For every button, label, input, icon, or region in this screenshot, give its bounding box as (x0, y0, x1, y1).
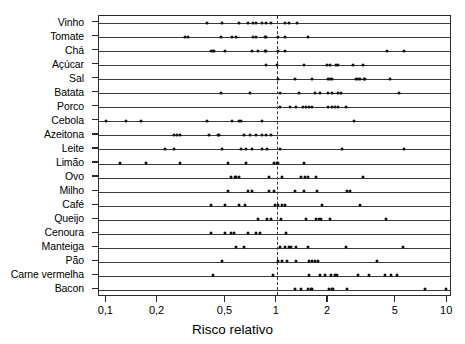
data-point (261, 21, 264, 24)
relative-risk-dot-plot: VinhoTomateCháAçúcarSalBatataPorcoCebola… (0, 0, 465, 344)
data-point (361, 63, 364, 66)
row-guide-line (99, 290, 450, 291)
data-point (328, 218, 331, 221)
y-tick-mark (92, 246, 98, 247)
data-point (289, 105, 292, 108)
y-axis-label-5: Sal (69, 72, 84, 83)
y-axis-label-13: Milho (59, 185, 84, 196)
y-tick-mark (92, 35, 98, 36)
data-point (235, 246, 238, 249)
data-point (359, 204, 362, 207)
data-point (286, 260, 289, 263)
data-point (261, 119, 264, 122)
data-point (330, 77, 333, 80)
data-point (231, 119, 234, 122)
data-point (319, 91, 322, 94)
data-point (306, 246, 309, 249)
x-axis-title: Risco relativo (0, 323, 465, 337)
data-point (403, 147, 406, 150)
data-point (265, 49, 268, 52)
data-point (209, 232, 212, 235)
data-point (284, 246, 287, 249)
y-axis-label-9: Azeitona (44, 129, 84, 140)
y-axis-label-16: Cenoura (44, 227, 84, 238)
data-point (271, 274, 274, 277)
data-point (255, 35, 258, 38)
data-point (227, 162, 230, 165)
y-axis-label-10: Leite (62, 143, 84, 154)
data-point (247, 21, 250, 24)
data-point (257, 218, 260, 221)
x-tick-mark (105, 296, 106, 302)
data-point (235, 35, 238, 38)
data-point (445, 288, 448, 291)
data-point (388, 77, 391, 80)
row-guide-line (99, 107, 450, 108)
data-point (314, 91, 317, 94)
data-point (294, 288, 297, 291)
data-point (306, 176, 309, 179)
row-guide-line (99, 149, 450, 150)
data-point (227, 190, 230, 193)
y-tick-mark (92, 105, 98, 106)
y-axis-label-11: Limão (56, 157, 84, 168)
y-axis-label-20: Bacon (55, 283, 84, 294)
data-point (211, 274, 214, 277)
data-point (244, 162, 247, 165)
data-point (219, 91, 222, 94)
row-guide-line (99, 121, 450, 122)
data-point (281, 260, 284, 263)
data-point (251, 147, 254, 150)
row-guide-line (99, 51, 450, 52)
data-point (297, 91, 300, 94)
data-point (186, 35, 189, 38)
data-point (385, 218, 388, 221)
data-point (251, 190, 254, 193)
data-point (302, 63, 305, 66)
data-point (336, 105, 339, 108)
row-guide-line (99, 262, 450, 263)
data-point (206, 21, 209, 24)
data-point (287, 21, 290, 24)
data-point (232, 232, 235, 235)
data-point (118, 162, 121, 165)
data-point (265, 35, 268, 38)
data-point (230, 176, 233, 179)
data-point (332, 288, 335, 291)
data-point (266, 147, 269, 150)
data-point (294, 190, 297, 193)
row-guide-line (99, 23, 450, 24)
data-point (243, 204, 246, 207)
data-point (224, 204, 227, 207)
data-point (328, 63, 331, 66)
data-point (277, 204, 280, 207)
x-tick-label-2: 0,2 (149, 305, 164, 316)
y-tick-mark (92, 91, 98, 92)
data-point (295, 246, 298, 249)
y-tick-mark (92, 63, 98, 64)
row-guide-line (99, 234, 450, 235)
data-point (261, 147, 264, 150)
data-point (306, 35, 309, 38)
data-point (277, 260, 280, 263)
data-point (281, 176, 284, 179)
data-point (280, 218, 283, 221)
row-guide-line (99, 220, 450, 221)
data-point (320, 218, 323, 221)
data-point (255, 133, 258, 136)
data-point (302, 162, 305, 165)
data-point (397, 91, 400, 94)
data-point (144, 162, 147, 165)
data-point (339, 91, 342, 94)
data-point (315, 190, 318, 193)
data-point (290, 246, 293, 249)
data-point (244, 147, 247, 150)
data-point (240, 119, 243, 122)
data-point (221, 260, 224, 263)
y-tick-mark (92, 260, 98, 261)
data-point (275, 63, 278, 66)
y-axis-label-15: Queijo (54, 213, 84, 224)
y-axis-label-7: Porco (57, 101, 84, 112)
data-point (284, 204, 287, 207)
data-point (269, 133, 272, 136)
